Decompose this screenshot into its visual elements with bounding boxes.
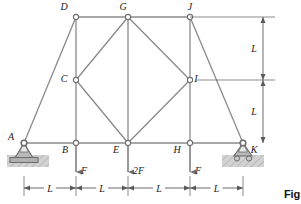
load-label-E: 2F — [133, 165, 145, 176]
joint-labels: ABCDEGHIJK — [7, 1, 259, 155]
joint-E — [125, 140, 130, 145]
load-label-B: F — [80, 165, 88, 176]
joint-I — [187, 77, 192, 82]
truss-figure: ABCDEGHIJK F2FF LLLLLL Fig — [0, 0, 301, 204]
joint-A — [21, 140, 26, 145]
load-label-H: F — [194, 165, 202, 176]
joint-label-B: B — [62, 144, 68, 155]
v-dimension-label-0: L — [250, 43, 257, 54]
joint-label-E: E — [112, 144, 119, 155]
ground-pad-right — [222, 155, 264, 167]
joint-label-A: A — [7, 131, 15, 142]
dimension-lines: LLLLLL — [24, 17, 275, 196]
member-EC — [76, 80, 128, 143]
h-dimension-label-2: L — [155, 183, 162, 194]
member-GI — [128, 17, 190, 80]
joint-label-D: D — [59, 1, 68, 12]
joint-label-H: H — [172, 144, 181, 155]
h-dimension-label-3: L — [213, 183, 220, 194]
member-IE — [128, 80, 190, 143]
joint-C — [73, 77, 78, 82]
joint-K — [240, 140, 245, 145]
joint-label-C: C — [61, 73, 68, 84]
truss-diagram: ABCDEGHIJK F2FF LLLLLL — [0, 0, 301, 204]
joint-D — [73, 14, 78, 19]
member-AD — [24, 17, 76, 143]
figure-caption: Fig — [284, 188, 300, 200]
joint-label-K: K — [250, 144, 259, 155]
h-dimension-label-1: L — [98, 183, 105, 194]
h-dimension-label-0: L — [46, 183, 53, 194]
joint-label-J: J — [188, 1, 193, 12]
joint-G — [125, 14, 130, 19]
v-dimension-label-1: L — [250, 106, 257, 117]
load-arrows: F2FF — [76, 146, 202, 176]
member-CG — [76, 17, 128, 80]
joint-label-G: G — [119, 1, 126, 12]
joint-B — [73, 140, 78, 145]
joint-H — [187, 140, 192, 145]
joint-label-I: I — [193, 73, 198, 84]
